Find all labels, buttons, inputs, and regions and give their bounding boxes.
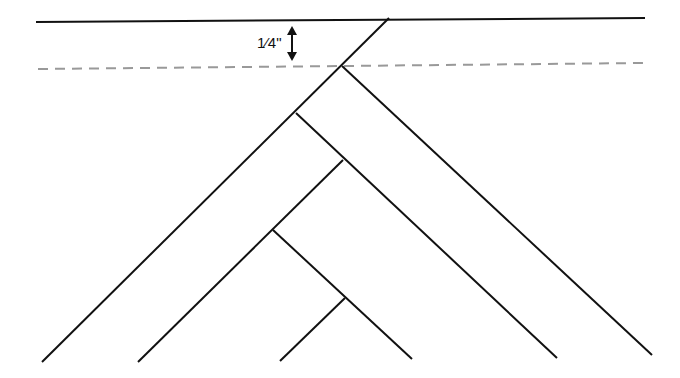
strip-edge-line: [296, 113, 557, 358]
strip-edge-line: [42, 18, 389, 362]
strip-edge-line: [138, 160, 343, 362]
strip-edge-line: [273, 230, 412, 359]
strip-edge-line: [280, 298, 345, 361]
quarter-inch-label: 1⁄4": [257, 34, 282, 51]
strip-edges: [42, 18, 652, 362]
double-arrow-icon: [287, 26, 297, 61]
top-edge-line: [36, 18, 645, 22]
herringbone-seam-diagram: [0, 0, 680, 378]
strip-edge-line: [342, 66, 652, 355]
